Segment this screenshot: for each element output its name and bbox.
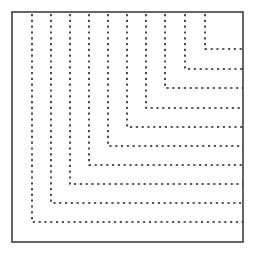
dashed-l-line xyxy=(205,14,243,49)
dashed-l-line xyxy=(127,14,243,127)
dashed-l-lines xyxy=(32,14,243,222)
dashed-l-line xyxy=(146,14,243,108)
dashed-l-line xyxy=(108,14,243,146)
dashed-l-line xyxy=(70,14,243,184)
outer-frame xyxy=(12,12,243,242)
dashed-l-line xyxy=(89,14,243,165)
diagram-canvas xyxy=(0,0,255,253)
dashed-l-line xyxy=(32,14,243,222)
dashed-l-line xyxy=(165,14,243,88)
dashed-l-line xyxy=(185,14,243,69)
